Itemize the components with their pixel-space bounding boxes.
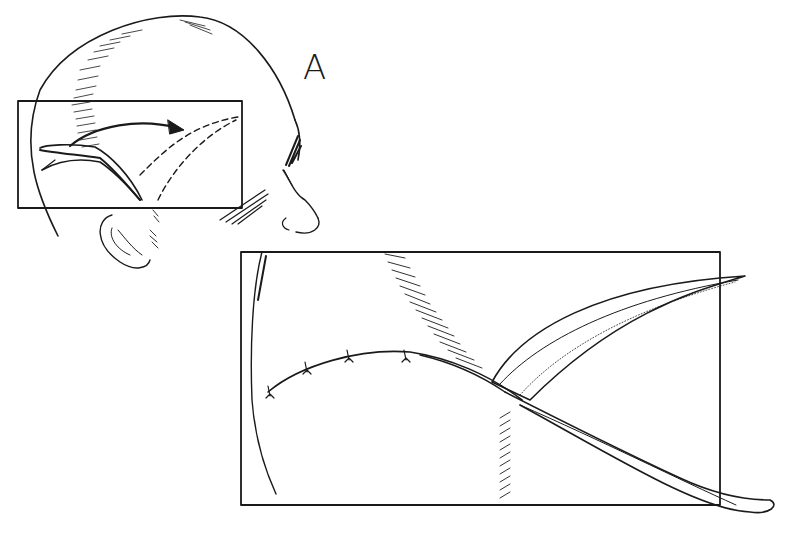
- enlarged-detail: [251, 252, 774, 513]
- sutures: [266, 350, 410, 398]
- enlarged-detail-box: [241, 252, 720, 505]
- detail-box-head: [18, 101, 242, 208]
- surgical-illustration: [0, 0, 798, 539]
- planned-flap-position: [140, 117, 238, 200]
- flap-rotation-arrow: [70, 120, 184, 146]
- panel-label: A: [303, 50, 326, 84]
- upper-flap: [492, 276, 745, 400]
- small-flap: [40, 145, 142, 200]
- suture-line: [268, 351, 522, 400]
- lower-flap: [505, 392, 774, 513]
